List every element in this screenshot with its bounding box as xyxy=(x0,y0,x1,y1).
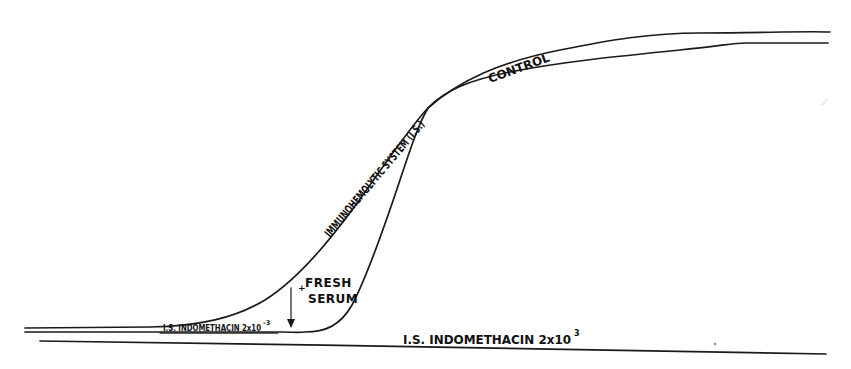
left-baseline-text: I.S. INDOMETHACIN 2x10 xyxy=(163,323,261,333)
scan-speck xyxy=(714,343,716,345)
bottom-baseline-label: I.S. INDOMETHACIN 2x10 3 xyxy=(403,329,580,347)
control-label-part1: IMMUNOHEMOLYTIC SYSTEM (I.S.) xyxy=(322,118,428,240)
control-label-part2: CONTROL xyxy=(486,51,552,86)
control-curve-label: IMMUNOHEMOLYTIC SYSTEM (I.S.) CONTROL xyxy=(322,51,552,240)
left-baseline-label: I.S. INDOMETHACIN 2x10 -3 xyxy=(160,319,278,333)
fresh-serum-curve xyxy=(25,43,828,332)
fresh-serum-line2: SERUM xyxy=(308,292,358,306)
fresh-serum-label: + FRESH SERUM xyxy=(298,276,358,306)
fresh-serum-line1: FRESH xyxy=(305,276,352,290)
control-curve xyxy=(25,32,830,328)
bottom-baseline-text: I.S. INDOMETHACIN 2x10 xyxy=(403,333,571,347)
bottom-baseline-exponent: 3 xyxy=(574,329,580,338)
hemolysis-figure: IMMUNOHEMOLYTIC SYSTEM (I.S.) CONTROL + … xyxy=(0,0,851,369)
scan-mark xyxy=(822,99,827,105)
left-baseline-exponent: -3 xyxy=(263,319,270,327)
fresh-serum-arrow-head xyxy=(287,319,295,328)
